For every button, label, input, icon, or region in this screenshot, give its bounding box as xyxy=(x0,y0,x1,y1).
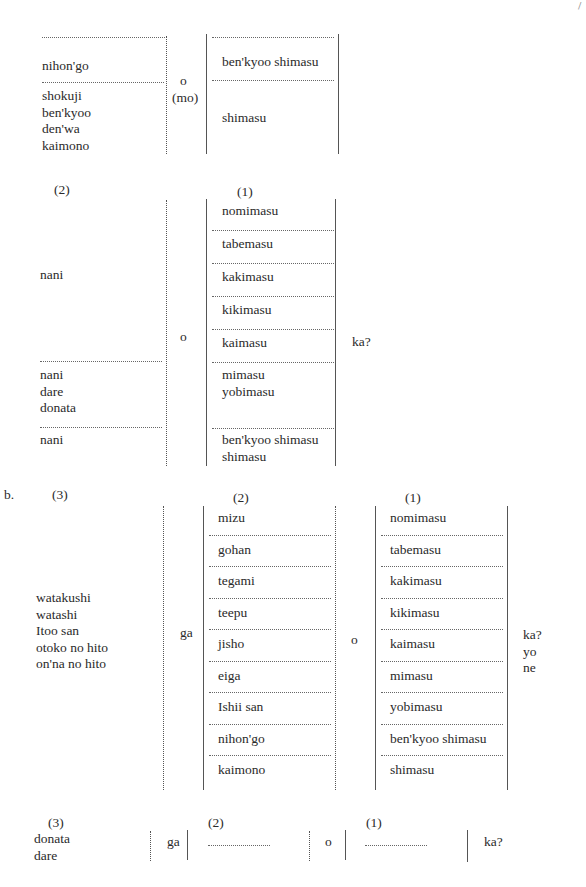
column-border xyxy=(203,506,204,790)
divider xyxy=(381,629,503,630)
column-border xyxy=(338,34,339,154)
subject-list: donata dare xyxy=(34,831,70,864)
verb: shimasu xyxy=(222,110,266,126)
divider xyxy=(212,80,334,81)
verb: ben'kyoo shimasu xyxy=(222,54,319,70)
label-3: (3) xyxy=(48,815,64,831)
label-1: (1) xyxy=(237,184,253,200)
noun: nani xyxy=(40,432,63,448)
object-particle: o xyxy=(325,834,332,850)
object: tegami xyxy=(218,573,255,589)
verb: mimasu xyxy=(390,668,433,684)
divider xyxy=(212,37,334,38)
column-divider xyxy=(309,831,310,861)
verb-placeholder xyxy=(365,845,427,846)
divider xyxy=(42,37,167,38)
column-border xyxy=(375,506,376,790)
verb: kakimasu xyxy=(222,269,274,285)
verb: kikimasu xyxy=(222,302,272,318)
verb: shimasu xyxy=(390,762,434,778)
sentence-ending: ka? xyxy=(484,834,503,850)
divider xyxy=(40,427,162,428)
verb: nomimasu xyxy=(222,203,278,219)
divider xyxy=(209,598,331,599)
divider xyxy=(381,755,503,756)
noun: nani xyxy=(40,267,63,283)
label-2: (2) xyxy=(208,815,224,831)
divider xyxy=(212,428,334,429)
column-border xyxy=(345,830,346,860)
divider xyxy=(212,329,334,330)
verb: ben'kyoo shimasu xyxy=(390,731,487,747)
divider xyxy=(381,535,503,536)
column-border xyxy=(467,830,468,862)
verb: kakimasu xyxy=(390,573,442,589)
column-divider xyxy=(163,506,164,790)
verb: tabemasu xyxy=(390,542,441,558)
verb: kikimasu xyxy=(390,605,440,621)
column-border xyxy=(335,199,336,466)
column-border xyxy=(187,830,188,860)
verb-group: ben'kyoo shimasu shimasu xyxy=(222,432,319,465)
object: teepu xyxy=(218,605,247,621)
divider xyxy=(209,724,331,725)
noun-group: shokuji ben'kyoo den'wa kaimono xyxy=(42,88,91,154)
column-border xyxy=(206,199,207,466)
divider xyxy=(212,263,334,264)
particle: o xyxy=(180,73,187,89)
label-2: (2) xyxy=(54,182,70,198)
verb: kaimasu xyxy=(390,636,435,652)
verb: kaimasu xyxy=(222,335,267,351)
label-2: (2) xyxy=(233,490,249,506)
column-border xyxy=(507,506,508,790)
object-particle: o xyxy=(351,632,358,648)
divider xyxy=(42,82,164,83)
verb: nomimasu xyxy=(390,510,446,526)
label-1: (1) xyxy=(366,815,382,831)
subject-particle: ga xyxy=(180,625,193,641)
divider xyxy=(381,598,503,599)
section-marker: b. xyxy=(4,487,14,503)
label-1: (1) xyxy=(405,490,421,506)
divider xyxy=(209,755,331,756)
object: gohan xyxy=(218,542,251,558)
object-placeholder xyxy=(208,845,270,846)
object: mizu xyxy=(218,510,245,526)
sentence-ending: ka? xyxy=(352,334,371,350)
divider xyxy=(381,661,503,662)
object: eiga xyxy=(218,668,241,684)
object: jisho xyxy=(218,636,244,652)
column-divider xyxy=(335,506,336,790)
divider xyxy=(209,661,331,662)
label-3: (3) xyxy=(52,487,68,503)
divider xyxy=(209,692,331,693)
sentence-endings: ka? yo ne xyxy=(523,627,542,677)
object: Ishii san xyxy=(218,699,263,715)
subject-list: watakushi watashi Itoo san otoko no hito… xyxy=(36,590,108,673)
divider xyxy=(209,629,331,630)
page-mark: / xyxy=(578,0,581,11)
noun-group: nani dare donata xyxy=(40,367,76,417)
column-divider xyxy=(166,36,167,154)
object: kaimono xyxy=(218,762,265,778)
verb: tabemasu xyxy=(222,236,273,252)
verb-group: mimasu yobimasu xyxy=(222,367,275,400)
object: nihon'go xyxy=(218,731,265,747)
noun: nihon'go xyxy=(42,58,89,74)
particle: o xyxy=(180,329,187,345)
divider xyxy=(381,566,503,567)
divider xyxy=(209,535,331,536)
divider xyxy=(40,361,162,362)
column-divider xyxy=(150,831,151,861)
divider xyxy=(381,724,503,725)
subject-particle: ga xyxy=(167,834,180,850)
divider xyxy=(212,230,334,231)
divider xyxy=(381,692,503,693)
divider xyxy=(209,566,331,567)
particle-alt: (mo) xyxy=(172,90,198,106)
verb: yobimasu xyxy=(390,699,443,715)
divider xyxy=(212,296,334,297)
divider xyxy=(212,362,334,363)
column-divider xyxy=(166,200,167,466)
column-border xyxy=(206,34,207,154)
